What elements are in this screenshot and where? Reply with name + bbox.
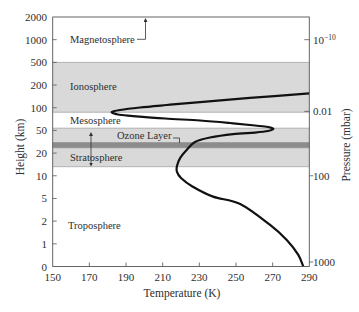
temperature-profile-curve [112,93,310,266]
y-tick-label: 20 [36,147,48,159]
y-tick-label: 50 [36,124,48,136]
y-tick-label: 200 [31,79,48,91]
y2-tick-base: 10 [313,34,325,46]
atmosphere-chart: 012510205010020050010002000 150170190210… [0,0,359,312]
magnetosphere-pointer-arrow-icon [137,20,146,39]
x-tick-label: 250 [228,271,245,283]
y2-tick-exponent: −10 [324,33,336,42]
label-magnetosphere: Magnetosphere [70,34,135,45]
y2-tick-label: 100 [313,170,330,182]
x-tick-label: 230 [191,271,208,283]
label-stratosphere: Stratosphere [70,152,123,163]
y-tick-label: 500 [31,56,48,68]
chart-canvas: 012510205010020050010002000 150170190210… [0,0,359,312]
x-tick-label: 210 [154,271,171,283]
x-tick-label: 170 [81,271,98,283]
y-tick-label: 2 [42,215,48,227]
y-axis-title: Height (km) [14,119,27,176]
x-tick-label: 150 [44,271,61,283]
label-ionosphere: Ionosphere [70,81,117,92]
y2-tick-label: 10−10 [313,33,336,46]
y-axis-height: 012510205010020050010002000 [25,11,57,273]
y-tick-label: 10 [36,170,48,182]
x-axis-temperature: 150170190210230250270290 [44,263,318,284]
x-tick-label: 190 [118,271,135,283]
x-tick-label: 290 [301,271,318,283]
y-tick-label: 1000 [25,34,48,46]
y2-axis-title: Pressure (mbar) [340,108,353,181]
x-tick-label: 270 [264,271,281,283]
y-tick-label: 2000 [25,11,48,23]
y2-tick-base: 100 [313,170,330,182]
y-tick-label: 5 [42,192,48,204]
label-ozone-layer: Ozone Layer [117,130,172,141]
y2-tick-label: 0.01 [313,105,332,117]
y2-tick-label: 1000 [313,256,336,268]
temperature-curve-layer [112,93,310,266]
y-tick-label: 100 [31,102,48,114]
label-troposphere: Troposphere [68,220,121,231]
y2-tick-base: 1000 [313,256,336,268]
label-mesosphere: Mesosphere [70,115,121,126]
y-tick-label: 1 [42,238,48,250]
y2-tick-base: 0.01 [313,105,332,117]
x-axis-title: Temperature (K) [144,287,221,300]
